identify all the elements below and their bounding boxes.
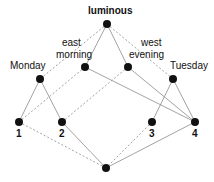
node-label-2: 2 — [59, 129, 65, 139]
node-label-tuesday: Tuesday — [170, 61, 208, 71]
node-n1 — [15, 118, 23, 126]
node-label-1: 1 — [16, 129, 22, 139]
node-monday — [36, 75, 44, 83]
edge-layer — [0, 0, 214, 182]
edge-monday-n2 — [40, 79, 62, 122]
edge-westevening-n4 — [128, 67, 195, 122]
node-label-monday: Monday — [10, 61, 46, 71]
node-label-morning: morning — [56, 50, 92, 60]
edge-tuesday-n4 — [173, 79, 195, 122]
node-label-4: 4 — [192, 129, 198, 139]
node-label-west: west — [141, 38, 162, 48]
edge-eastmorning-n4 — [85, 67, 195, 122]
node-label-3: 3 — [149, 129, 155, 139]
edge-n3-bottom — [106, 122, 152, 168]
node-label-evening: evening — [129, 50, 164, 60]
node-n4 — [191, 118, 199, 126]
edge-eastmorning-n1 — [19, 67, 85, 122]
edge-top-westevening — [107, 24, 128, 67]
node-top — [103, 20, 111, 28]
node-label-luminous: luminous — [88, 6, 132, 16]
node-bottom — [102, 164, 110, 172]
lattice-diagram: luminous Monday east morning west evenin… — [0, 0, 214, 182]
edge-top-eastmorning — [85, 24, 107, 67]
node-tuesday — [169, 75, 177, 83]
node-label-east: east — [62, 38, 81, 48]
node-n3 — [148, 118, 156, 126]
edge-monday-n1 — [19, 79, 40, 122]
node-eastmorning — [81, 63, 89, 71]
edge-tuesday-n3 — [152, 79, 173, 122]
node-n2 — [58, 118, 66, 126]
node-westevening — [124, 63, 132, 71]
edge-westevening-n2 — [62, 67, 128, 122]
edge-n2-bottom — [62, 122, 106, 168]
